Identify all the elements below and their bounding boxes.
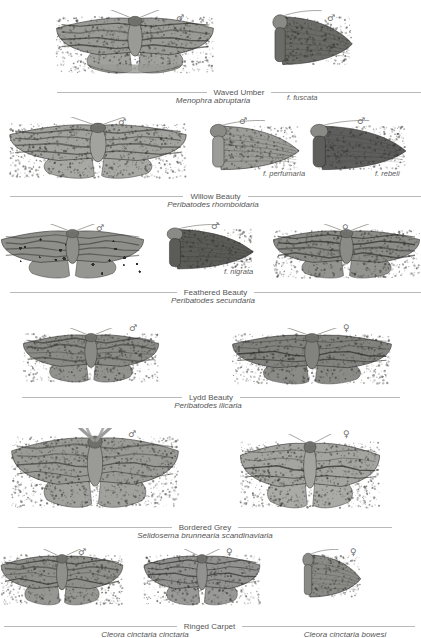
male-symbol-icon: ♂: [96, 224, 104, 233]
specimen-figure: [10, 428, 180, 516]
specimen-figure: [0, 224, 145, 284]
rule-line-right: [271, 92, 421, 93]
male-symbol-icon: ♂: [211, 222, 219, 231]
rule-line-right: [248, 196, 421, 197]
specimen-figure: [55, 10, 215, 80]
specimen-figure: [272, 224, 421, 284]
scientific-name-label: Menophra abruptaria: [0, 96, 421, 105]
specimen-figure: [231, 328, 393, 390]
male-symbol-icon: ♂: [327, 14, 335, 23]
specimen-figure: [300, 549, 362, 609]
scientific-name-label: Peribatodes rhomboidaria: [0, 200, 421, 209]
specimen-figure: [143, 549, 261, 611]
rule-line-right: [242, 626, 415, 627]
specimen-figure: [0, 549, 124, 611]
scientific-name-label: Peribatodes ilicaria: [0, 401, 416, 410]
male-symbol-icon: ♂: [78, 548, 86, 557]
rule-line-right: [240, 397, 400, 398]
specimen-figure: [22, 328, 160, 388]
rule-line-left: [10, 196, 183, 197]
rule-line-left: [22, 397, 182, 398]
scientific-name-label: Selidosema brunnearia scandinaviaria: [0, 531, 410, 540]
female-symbol-icon: ♀: [342, 224, 349, 233]
scientific-name-label: Cleora cinctaria cinctaria: [0, 630, 290, 638]
female-symbol-icon: ♀: [343, 430, 350, 439]
male-symbol-icon: ♂: [239, 117, 247, 126]
male-symbol-icon: ♂: [129, 324, 137, 333]
scientific-name-label: Peribatodes secundaria: [0, 296, 421, 305]
specimen-figure: [239, 434, 381, 516]
scientific-name-label-secondary: Cleora cinctaria bowesi: [265, 630, 421, 638]
rule-line-left: [4, 626, 177, 627]
rule-line-left: [57, 92, 207, 93]
rule-line-left: [10, 292, 177, 293]
male-symbol-icon: ♂: [128, 430, 136, 439]
form-name-label: f. rebeli: [375, 169, 400, 178]
female-symbol-icon: ♀: [226, 548, 233, 557]
male-symbol-icon: ♂: [118, 118, 126, 127]
female-symbol-icon: ♀: [350, 548, 357, 557]
rule-line-right: [254, 292, 421, 293]
female-symbol-icon: ♀: [343, 324, 350, 333]
rule-line-right: [238, 527, 392, 528]
specimen-figure: [269, 10, 354, 78]
moth-plate: ♂♂f. fuscataWaved UmberMenophra abruptar…: [0, 0, 421, 638]
male-symbol-icon: ♂: [357, 117, 365, 126]
male-symbol-icon: ♂: [176, 14, 184, 23]
form-name-label: f. perfumaria: [263, 169, 305, 178]
specimen-figure: [8, 117, 188, 185]
form-name-label: f. nigrata: [224, 267, 253, 276]
rule-line-left: [18, 527, 172, 528]
